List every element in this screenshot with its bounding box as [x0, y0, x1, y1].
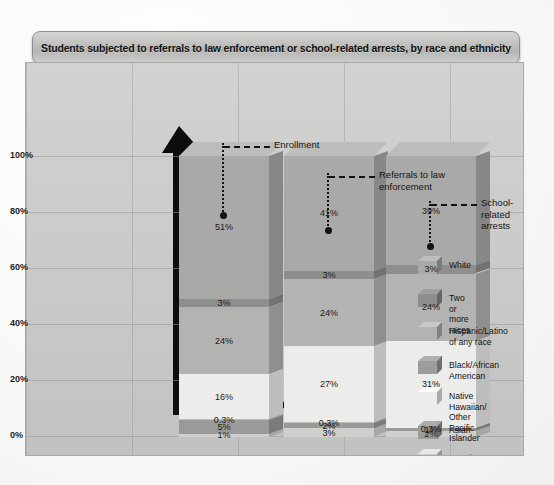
callout-leader-line	[327, 173, 331, 230]
bar-segment[interactable]: 27%	[284, 346, 374, 422]
callout-label: Referrals to law enforcement	[379, 169, 445, 192]
y-axis-tick-label: 40%	[10, 318, 54, 328]
callout-dot-marker	[427, 243, 434, 250]
bar-segment-value-label: 24%	[422, 302, 440, 312]
callout-leader-line	[222, 143, 226, 215]
legend-item[interactable]: American Indian/ Alaska Native	[418, 449, 485, 456]
legend-swatch-front-face	[418, 392, 437, 405]
gridline-vertical	[132, 63, 133, 455]
bar-segment-value-label: 24%	[320, 308, 338, 318]
bar-segment-value-label: 1%	[217, 430, 230, 440]
bar-segment[interactable]: 3%	[284, 428, 374, 436]
legend-item[interactable]: Hispanic/Latino of any race	[418, 322, 508, 347]
legend-item-label: White	[449, 256, 471, 271]
bar-side-face	[269, 151, 283, 299]
bar-top-face	[386, 142, 490, 156]
bar-segment-value-label: 41%	[320, 208, 338, 218]
y-axis-tick-label: 100%	[10, 150, 54, 160]
bar-segment-value-label: 3%	[217, 298, 230, 308]
bar-segment-value-label: 24%	[215, 336, 233, 346]
legend-item-label: Asian	[449, 421, 471, 436]
chart-title-bar: Students subjected to referrals to law e…	[32, 31, 520, 64]
legend-swatch-side-face	[437, 322, 442, 340]
legend-swatch-side-face	[437, 356, 442, 374]
bar-segment-value-label: 3%	[322, 270, 335, 280]
legend-swatch-front-face	[418, 361, 437, 374]
gridline-vertical	[26, 63, 27, 455]
bar-side-face	[269, 302, 283, 374]
bar-segment-value-label: 3%	[424, 264, 437, 274]
bar-segment-value-label: 31%	[422, 379, 440, 389]
legend-color-swatch	[418, 387, 441, 405]
bar-segment[interactable]: 16%	[179, 374, 269, 419]
y-axis-tick-label: 60%	[10, 262, 54, 272]
page-title: Students subjected to referrals to law e…	[41, 42, 511, 54]
callout-dash-connector	[224, 146, 270, 148]
bar-side-face	[269, 369, 283, 419]
bar-segment[interactable]: 24%	[284, 279, 374, 346]
bar-segment-value-label: 2%	[424, 429, 437, 439]
legend-color-swatch	[418, 449, 441, 456]
legend-item-label: Black/African American	[449, 356, 499, 381]
callout-label: School-related arrests	[481, 197, 523, 232]
legend-swatch-side-face	[437, 387, 442, 405]
bar-segment[interactable]: 24%	[179, 307, 269, 374]
bar-segment-value-label: 51%	[215, 222, 233, 232]
bar-segment[interactable]: 1%	[179, 434, 269, 437]
legend-item-label: American Indian/ Alaska Native	[449, 449, 485, 456]
callout-dash-connector	[329, 176, 375, 178]
legend-item[interactable]: Black/African American	[418, 356, 499, 381]
legend-color-swatch	[418, 322, 441, 340]
legend-item-label: Hispanic/Latino of any race	[449, 322, 508, 347]
legend-swatch-side-face	[437, 256, 442, 274]
bar-segment-value-label: 3%	[322, 428, 335, 438]
bar-top-face	[179, 142, 283, 156]
callout-dot-marker	[325, 227, 332, 234]
y-axis-tick-label: 20%	[10, 374, 54, 384]
callout-label: Enrollment	[274, 139, 319, 151]
legend-swatch-front-face	[418, 327, 437, 340]
legend-color-swatch	[418, 356, 441, 374]
bar-segment[interactable]: 3%	[179, 299, 269, 307]
y-axis-tick-label: 80%	[10, 206, 54, 216]
bar-segment-value-label: 27%	[320, 379, 338, 389]
y-axis-tick-label: 0%	[10, 430, 54, 440]
callout-dot-marker	[220, 212, 227, 219]
bar-segment[interactable]: 3%	[284, 271, 374, 279]
bar-segment-value-label: 16%	[215, 392, 233, 402]
chart-plot-area: 51%3%24%16%0.3%5%1%41%3%24%27%0.3%2%3%39…	[25, 62, 524, 456]
bar-segment-value-label: 39%	[422, 206, 440, 216]
